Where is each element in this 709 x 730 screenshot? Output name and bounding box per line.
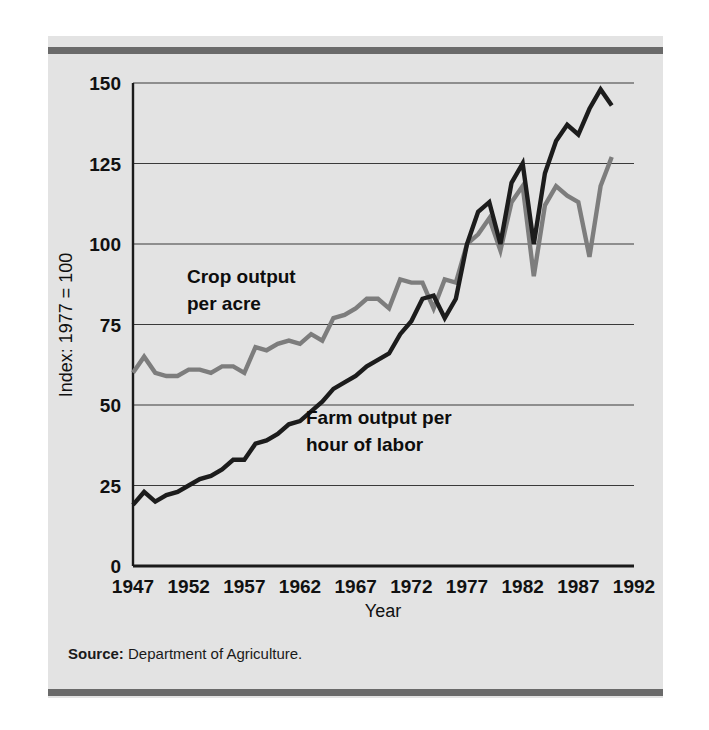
y-tick-label: 125 <box>89 154 121 175</box>
figure-page: 0255075100125150 19471952195719621967197… <box>0 0 709 730</box>
x-tick-label: 1957 <box>223 576 265 597</box>
x-tick-label: 1992 <box>613 576 655 597</box>
series-label-farm-output: Farm output per hour of labor <box>306 407 452 455</box>
series-label-crop-output-line1: Crop output <box>187 266 296 287</box>
y-tick-label: 100 <box>89 234 121 255</box>
y-tick-label: 75 <box>100 315 122 336</box>
y-tick-label: 150 <box>89 73 121 94</box>
x-tick-label: 1952 <box>168 576 210 597</box>
x-tick-label: 1987 <box>557 576 599 597</box>
source-prefix: Source: <box>68 645 124 662</box>
x-tick-label: 1977 <box>446 576 488 597</box>
y-tick-label: 50 <box>100 395 121 416</box>
x-tick-label: 1962 <box>279 576 321 597</box>
series-label-crop-output-line2: per acre <box>187 293 261 314</box>
x-tick-labels: 1947195219571962196719721977198219871992 <box>112 576 655 597</box>
source-note: Source: Department of Agriculture. <box>68 645 302 662</box>
y-axis-title: Index: 1977 = 100 <box>56 253 76 398</box>
series-label-farm-output-line1: Farm output per <box>306 407 452 428</box>
x-tick-label: 1972 <box>390 576 432 597</box>
line-chart: 0255075100125150 19471952195719621967197… <box>0 0 709 730</box>
y-tick-label: 25 <box>100 476 122 497</box>
y-tick-label: 0 <box>110 556 121 577</box>
y-tick-labels: 0255075100125150 <box>89 73 121 577</box>
series-label-crop-output: Crop output per acre <box>187 266 296 314</box>
series-label-farm-output-line2: hour of labor <box>306 434 424 455</box>
x-axis-title: Year <box>365 601 401 621</box>
x-tick-label: 1982 <box>502 576 544 597</box>
source-text: Department of Agriculture. <box>128 645 302 662</box>
x-tick-label: 1947 <box>112 576 154 597</box>
x-tick-label: 1967 <box>335 576 377 597</box>
